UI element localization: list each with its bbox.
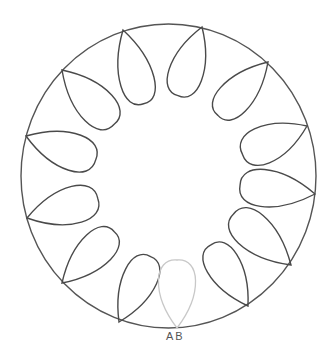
- loops: [26, 27, 315, 322]
- loop: [118, 30, 155, 105]
- loop: [27, 185, 99, 224]
- diagram-canvas: [0, 0, 334, 362]
- loop: [118, 254, 160, 322]
- loop: [62, 227, 119, 283]
- loop: [240, 123, 307, 165]
- loop: [62, 70, 120, 130]
- faint-loop: [158, 260, 195, 328]
- loop: [203, 242, 248, 306]
- loop: [240, 169, 315, 207]
- loop: [212, 62, 268, 120]
- label-ab: AB: [166, 330, 185, 342]
- loop: [167, 27, 205, 97]
- loop: [26, 131, 97, 172]
